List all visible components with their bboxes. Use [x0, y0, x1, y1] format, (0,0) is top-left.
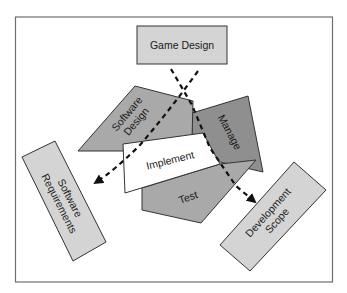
game-design-label: Game Design — [150, 39, 214, 51]
diagram-canvas: Software Requirements Development Scope … — [0, 0, 347, 293]
game-design-node: Game Design — [137, 26, 227, 64]
